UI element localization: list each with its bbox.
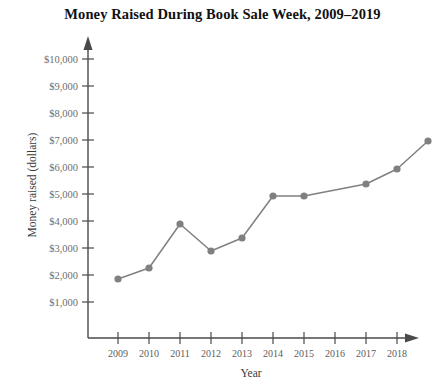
- x-tick-label: 2014: [263, 348, 283, 359]
- chart-container: Money Raised During Book Sale Week, 2009…: [0, 0, 445, 385]
- y-axis-arrow-icon: [84, 36, 93, 50]
- x-tick-label: 2017: [356, 348, 376, 359]
- x-tick-label: 2009: [108, 348, 128, 359]
- x-axis: [88, 334, 419, 343]
- y-tick-label: $6,000: [49, 162, 78, 173]
- y-tick-label: $5,000: [49, 189, 78, 200]
- data-point-2014[interactable]: [269, 192, 276, 199]
- line-chart-plot: $10,000 $9,000 $8,000 $7,000 $6,000 $5,0…: [0, 0, 445, 385]
- data-point-2017[interactable]: [362, 180, 369, 187]
- data-point-2011[interactable]: [176, 220, 183, 227]
- data-point-2015[interactable]: [300, 192, 307, 199]
- y-tick-label: $4,000: [49, 216, 78, 227]
- x-tick-label: 2016: [325, 348, 345, 359]
- y-tick-labels: $10,000 $9,000 $8,000 $7,000 $6,000 $5,0…: [44, 54, 78, 308]
- y-axis-title: Money raised (dollars): [26, 132, 39, 237]
- x-tick-label: 2018: [387, 348, 407, 359]
- data-point-2013[interactable]: [238, 234, 245, 241]
- x-tick-label: 2015: [294, 348, 314, 359]
- y-tick-label: $2,000: [49, 270, 78, 281]
- data-point-2010[interactable]: [145, 264, 152, 271]
- data-point-markers: [114, 137, 431, 282]
- data-point-2018[interactable]: [393, 165, 400, 172]
- x-tick-labels: 2009 2010 2011 2012 2013 2014 2015 2016 …: [108, 348, 407, 359]
- y-tick-label: $7,000: [49, 135, 78, 146]
- y-axis: [84, 36, 93, 338]
- x-tick-label: 2011: [170, 348, 190, 359]
- x-tick-label: 2013: [232, 348, 252, 359]
- y-tick-label: $9,000: [49, 81, 78, 92]
- y-tick-label: $3,000: [49, 243, 78, 254]
- y-tick-label: $1,000: [49, 297, 78, 308]
- x-axis-title: Year: [240, 367, 261, 379]
- x-tick-label: 2010: [139, 348, 159, 359]
- data-point-2012[interactable]: [207, 247, 214, 254]
- data-line: [118, 141, 428, 279]
- data-point-2019[interactable]: [424, 137, 431, 144]
- x-axis-arrow-icon: [405, 334, 419, 343]
- y-tick-label: $10,000: [44, 54, 78, 65]
- y-tick-label: $8,000: [49, 108, 78, 119]
- data-point-2009[interactable]: [114, 275, 121, 282]
- x-tick-label: 2012: [201, 348, 221, 359]
